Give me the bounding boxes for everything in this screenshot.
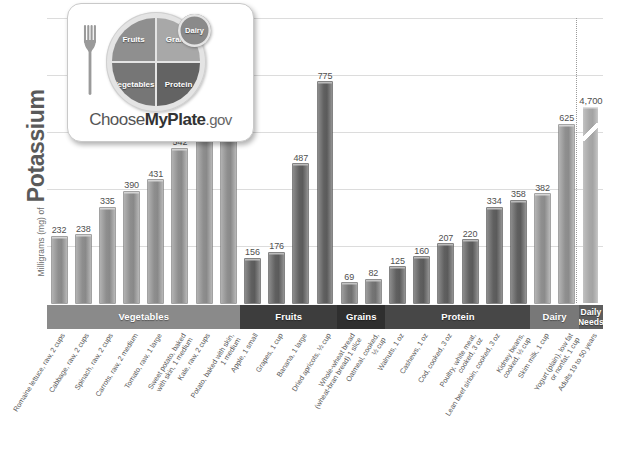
x-axis-tick-labels: Romaine lettuce, raw, 2 cupsCabbage, raw… (0, 330, 619, 471)
wordmark-choose: Choose (89, 110, 145, 129)
bar[interactable] (197, 115, 212, 303)
bar[interactable] (414, 257, 429, 303)
bar-slot[interactable]: 160 (414, 246, 429, 303)
bar[interactable] (390, 267, 405, 303)
bar-value-label: 431 (148, 169, 163, 179)
bar-slot[interactable]: 335 (100, 196, 115, 303)
bar-value-label: 4,700 (579, 95, 602, 106)
bar[interactable] (463, 240, 478, 303)
bar-value-label: 207 (439, 233, 454, 243)
bar-value-label: 220 (463, 229, 478, 239)
plate-segment-fruits-label: Fruits (122, 35, 144, 44)
bar-slot[interactable]: 625 (559, 113, 574, 303)
bar-slot[interactable]: 4,700 (583, 95, 598, 304)
bar[interactable] (487, 208, 502, 303)
bar[interactable] (52, 237, 67, 303)
wordmark-gov: .gov (206, 111, 232, 128)
bar[interactable] (124, 192, 139, 303)
myplate-plate: Fruits Grains Vegetables Protein Dairy (106, 12, 214, 112)
bar-value-label: 156 (245, 247, 260, 257)
bar[interactable] (100, 208, 115, 303)
bar-slot[interactable]: 176 (269, 241, 284, 303)
bar-value-label: 775 (318, 71, 333, 81)
plate-segment-protein-label: Protein (165, 80, 193, 89)
bar-slot[interactable]: 82 (366, 268, 381, 303)
bar[interactable] (559, 125, 574, 303)
bar-value-label: 358 (511, 189, 526, 199)
bar-slot[interactable]: 382 (535, 183, 550, 303)
bar-value-label: 334 (487, 196, 502, 206)
plate-segment-dairy: Dairy (178, 14, 211, 47)
bar-slot[interactable]: 207 (438, 233, 453, 303)
daily-needs-divider (576, 18, 577, 303)
bar[interactable] (269, 253, 284, 303)
bar[interactable] (438, 244, 453, 303)
plate-segment-dairy-label: Dairy (185, 26, 204, 35)
category-label-vegetables: Vegetables (47, 305, 240, 329)
bar-slot[interactable]: 125 (390, 256, 405, 303)
category-label-fruits: Fruits (240, 305, 337, 329)
myplate-logo-card: Fruits Grains Vegetables Protein Dairy C… (67, 3, 254, 142)
bar-value-label: 382 (535, 183, 550, 193)
bar-value-label: 125 (390, 256, 405, 266)
bar-slot[interactable]: 156 (245, 247, 260, 303)
y-axis-title: Milligrams (mg) of Potassium (18, 28, 48, 338)
plate-segment-fruits: Fruits (112, 18, 155, 61)
bar[interactable] (366, 280, 381, 303)
bar-slot[interactable]: 232 (52, 225, 67, 303)
y-axis-title-nutrient: Potassium (25, 89, 48, 202)
bar[interactable] (342, 283, 357, 303)
bar[interactable] (318, 82, 333, 303)
bar[interactable] (172, 149, 187, 303)
bar-slot[interactable]: 390 (124, 180, 139, 303)
bar-slot[interactable]: 358 (511, 189, 526, 303)
bar[interactable] (511, 201, 526, 303)
bar-value-label: 232 (52, 225, 67, 235)
bar-value-label: 69 (344, 272, 354, 282)
bar-value-label: 160 (414, 246, 429, 256)
category-label-dairy: Dairy (530, 305, 578, 329)
bar-slot[interactable]: 775 (318, 71, 333, 303)
bar-slot[interactable]: 487 (293, 153, 308, 303)
fork-icon (82, 24, 98, 96)
plate-segment-vegetables-label: Vegetables (113, 80, 155, 89)
bar-value-label: 390 (124, 180, 139, 190)
myplate-wordmark: ChooseMyPlate.gov (68, 110, 253, 130)
bar-value-label: 625 (559, 113, 574, 123)
bar-value-label: 487 (293, 153, 308, 163)
bar-slot[interactable]: 334 (487, 196, 502, 303)
wordmark-myplate: MyPlate (145, 110, 206, 129)
bar[interactable] (76, 235, 91, 303)
bar[interactable] (245, 259, 260, 303)
bar[interactable] (293, 164, 308, 303)
bar-slot[interactable]: 238 (76, 224, 91, 303)
category-label-daily-needs: DailyNeeds (579, 305, 603, 329)
bar-slot[interactable]: 542 (172, 137, 187, 303)
axis-break-mark (580, 122, 601, 142)
bar-value-label: 238 (76, 224, 91, 234)
bar-slot[interactable]: 69 (342, 272, 357, 303)
plate-segment-protein: Protein (157, 63, 200, 106)
bar[interactable] (535, 194, 550, 303)
category-band: VegetablesFruitsGrainsProteinDairyDailyN… (47, 305, 603, 329)
bar-slot[interactable]: 220 (463, 229, 478, 303)
plate-segment-vegetables: Vegetables (112, 63, 155, 106)
bar-slot[interactable]: 431 (148, 169, 163, 303)
bar-value-label: 176 (269, 241, 284, 251)
bar-value-label: 82 (368, 268, 378, 278)
category-label-protein: Protein (385, 305, 530, 329)
bar-value-label: 335 (100, 196, 115, 206)
category-label-grains: Grains (337, 305, 385, 329)
bar[interactable] (148, 180, 163, 303)
bar[interactable] (583, 107, 598, 303)
